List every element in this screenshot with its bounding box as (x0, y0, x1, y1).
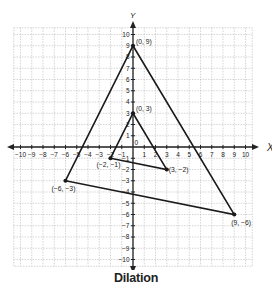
x-tick-label: 5 (187, 151, 191, 158)
x-axis-label: X (266, 142, 272, 153)
y-tick-label: −6 (122, 211, 130, 218)
y-tick-label: −9 (122, 245, 130, 252)
vertex-point (108, 156, 112, 160)
vertex-label: (−6, −3) (52, 185, 76, 193)
vertex-point (131, 44, 135, 48)
x-tick-label: 9 (232, 151, 236, 158)
x-tick-label: 8 (221, 151, 225, 158)
x-tick-label: 10 (242, 151, 250, 158)
x-tick-label: 3 (165, 151, 169, 158)
x-tick-label: −10 (15, 151, 26, 158)
y-tick-label: 6 (126, 76, 130, 83)
y-axis-arrow-up-icon (130, 21, 136, 28)
coordinate-plane: XY−10−9−8−7−6−5−4−3−2−112345678910109876… (0, 0, 272, 270)
y-axis-arrow-down-icon (130, 266, 136, 270)
x-axis-arrow-right-icon (252, 144, 259, 150)
dilated-triangle (66, 46, 235, 215)
axes (7, 21, 259, 270)
x-tick-label: −4 (84, 151, 92, 158)
y-tick-label: 5 (126, 87, 130, 94)
x-axis-arrow-left-icon (7, 144, 14, 150)
y-tick-label: −5 (122, 200, 130, 207)
x-tick-label: 7 (210, 151, 214, 158)
x-tick-label: −6 (62, 151, 70, 158)
y-tick-label: 10 (122, 31, 130, 38)
vertex-label: (0, 3) (136, 105, 152, 113)
y-tick-label: 1 (126, 132, 130, 139)
coordinate-plane-figure: XY−10−9−8−7−6−5−4−3−2−112345678910109876… (0, 0, 272, 294)
y-tick-label: 9 (126, 42, 130, 49)
vertex-point (131, 111, 135, 115)
y-tick-label: −3 (122, 177, 130, 184)
vertex-label: (0, 9) (136, 38, 152, 46)
y-tick-label: 7 (126, 65, 130, 72)
vertex-point (232, 212, 236, 216)
origin-label: 0 (135, 139, 139, 146)
x-tick-label: 1 (142, 151, 146, 158)
x-tick-label: 4 (176, 151, 180, 158)
vertex-label: (9, −6) (231, 219, 251, 227)
y-tick-label: 4 (126, 98, 130, 105)
vertex-label: (−2, −1) (97, 161, 121, 169)
x-tick-label: −9 (28, 151, 36, 158)
y-axis-label: Y (130, 11, 136, 20)
x-tick-label: −8 (39, 151, 47, 158)
x-tick-label: −7 (51, 151, 59, 158)
vertex-point (63, 179, 67, 183)
x-tick-label: −3 (96, 151, 104, 158)
triangles (63, 44, 236, 217)
y-tick-label: −2 (122, 166, 130, 173)
figure-caption: Dilation (0, 271, 272, 285)
y-tick-label: −7 (122, 222, 130, 229)
vertex-label: (3, −2) (169, 166, 189, 174)
y-tick-label: 3 (126, 110, 130, 117)
y-tick-label: −8 (122, 233, 130, 240)
y-tick-label: −10 (118, 256, 129, 263)
